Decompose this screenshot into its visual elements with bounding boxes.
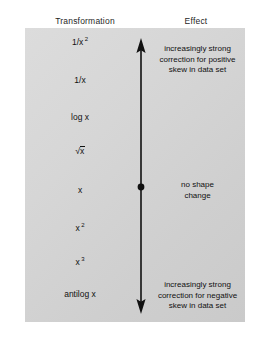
transformation-label-recip-square: 1/x2 bbox=[25, 36, 135, 46]
radicand: x bbox=[80, 146, 85, 156]
transformation-label-square-root: √x bbox=[25, 146, 135, 156]
effect-line: correction for positive bbox=[150, 55, 245, 66]
effect-line: skew in data set bbox=[150, 65, 245, 76]
transformation-label-antilog: antilog x bbox=[25, 290, 135, 299]
transformation-effect-figure: Transformation Effect 1/x21/xlog x√xxx2x… bbox=[0, 0, 267, 338]
transformation-base: 1/x bbox=[72, 37, 83, 47]
transformation-exponent: 2 bbox=[81, 222, 84, 228]
effect-line: correction for negative bbox=[150, 291, 245, 302]
column-header-effect: Effect bbox=[146, 16, 246, 26]
transformation-base: antilog x bbox=[64, 289, 96, 299]
square-root-icon: √x bbox=[75, 146, 85, 156]
effect-line: increasingly strong bbox=[150, 280, 245, 291]
transformation-column: 1/x21/xlog x√xxx2x3antilog x bbox=[25, 28, 135, 322]
effect-text-negative-skew: increasingly strongcorrection for negati… bbox=[150, 280, 245, 312]
transformation-base: x bbox=[78, 185, 82, 195]
transformation-label-square: x2 bbox=[25, 222, 135, 232]
transformation-label-reciprocal: 1/x bbox=[25, 76, 135, 85]
transformation-base: log x bbox=[71, 112, 89, 122]
effect-line: change bbox=[150, 191, 245, 202]
effect-line: increasingly strong bbox=[150, 44, 245, 55]
transformation-base: 1/x bbox=[74, 75, 85, 85]
effect-column: increasingly strongcorrection for positi… bbox=[150, 28, 245, 322]
transformation-exponent: 2 bbox=[85, 36, 88, 42]
effect-line: no shape bbox=[150, 180, 245, 191]
transformation-label-cube: x3 bbox=[25, 256, 135, 266]
transformation-label-log: log x bbox=[25, 113, 135, 122]
effect-text-no-change: no shapechange bbox=[150, 180, 245, 201]
transformation-exponent: 3 bbox=[81, 256, 84, 262]
transformation-label-identity: x bbox=[25, 186, 135, 195]
transformation-base: x bbox=[75, 257, 79, 267]
midpoint-dot-marker bbox=[138, 184, 145, 191]
transformation-base: x bbox=[75, 223, 79, 233]
effect-line: skew in data set bbox=[150, 301, 245, 312]
column-header-transformation: Transformation bbox=[26, 16, 144, 26]
effect-text-positive-skew: increasingly strongcorrection for positi… bbox=[150, 44, 245, 76]
